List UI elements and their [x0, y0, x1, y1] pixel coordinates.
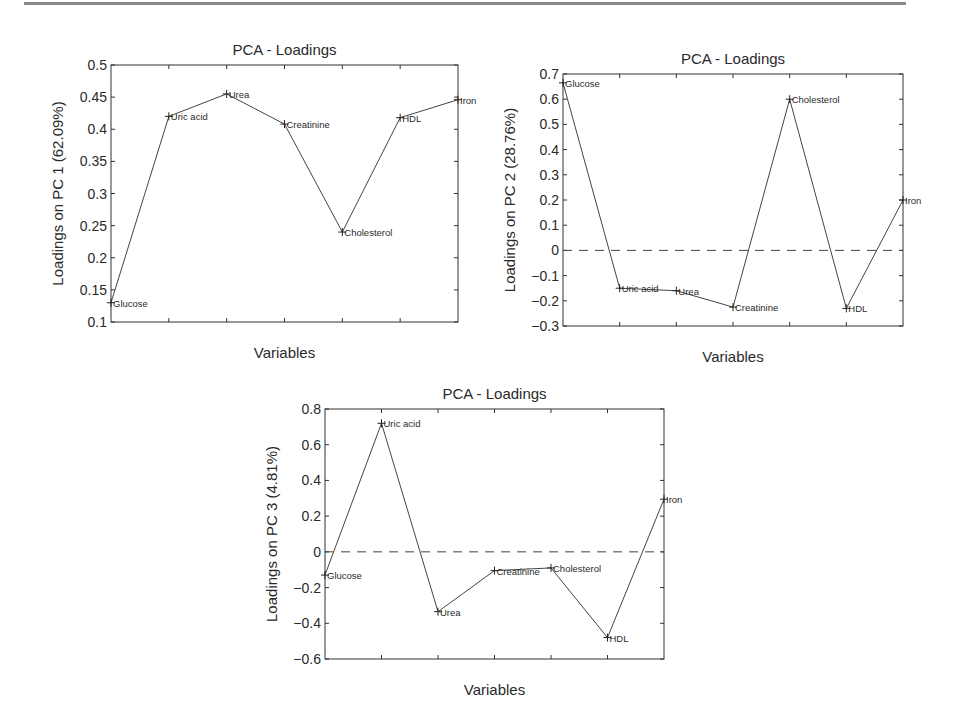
data-point-label: Creatinine [735, 302, 778, 313]
data-point-label: Glucose [565, 78, 600, 89]
x-axis-label: Variables [702, 348, 763, 365]
axes-box [563, 74, 903, 326]
loadings-line [325, 423, 664, 637]
data-point-label: Creatinine [287, 119, 330, 130]
y-tick-label: 0.7 [540, 66, 560, 82]
data-point-label: Uric acid [171, 111, 208, 122]
chart-title: PCA - Loadings [442, 385, 546, 402]
y-axis-label: Loadings on PC 1 (62.09%) [49, 101, 66, 285]
y-tick-label: 0 [551, 242, 559, 258]
chart-pc3-loadings: PCA - Loadings Variables Loadings on PC … [263, 385, 682, 698]
loadings-line [563, 83, 903, 309]
y-tick-label: 0.1 [88, 314, 108, 330]
data-point-label: Uric acid [622, 283, 659, 294]
y-tick-label: 0.2 [88, 250, 108, 266]
y-tick-label: 0.4 [540, 142, 560, 158]
chart-pc2-loadings: PCA - Loadings Variables Loadings on PC … [501, 50, 921, 365]
data-point-label: Cholesterol [553, 563, 601, 574]
y-tick-label: 0.35 [80, 153, 107, 169]
y-tick-label: −0.2 [293, 580, 321, 596]
y-tick-label: 0.3 [88, 186, 108, 202]
data-point-label: Iron [666, 494, 682, 505]
y-tick-label: 0.15 [80, 282, 107, 298]
x-axis-label: Variables [464, 681, 525, 698]
plot-area: −0.6−0.4−0.200.20.40.60.8GlucoseUric aci… [293, 401, 682, 667]
x-axis-label: Variables [254, 344, 315, 361]
pca-loadings-figure: PCA - Loadings Variables Loadings on PC … [0, 0, 958, 717]
y-axis-label: Loadings on PC 2 (28.76%) [501, 108, 518, 292]
axes-box [325, 409, 664, 659]
plot-area: −0.3−0.2−0.100.10.20.30.40.50.60.7Glucos… [531, 66, 921, 334]
y-tick-label: 0.5 [540, 116, 560, 132]
data-point-label: Creatinine [497, 566, 540, 577]
axes-box [111, 65, 458, 322]
y-tick-label: 0.1 [540, 217, 560, 233]
y-tick-label: 0.25 [80, 218, 107, 234]
y-tick-label: 0.2 [302, 508, 322, 524]
y-tick-label: −0.2 [531, 293, 559, 309]
data-point-label: Urea [440, 607, 461, 618]
data-point-label: Uric acid [384, 418, 421, 429]
chart-pc1-loadings: PCA - Loadings Variables Loadings on PC … [49, 41, 476, 361]
data-point-label: Cholesterol [792, 94, 840, 105]
data-point-label: Urea [229, 89, 250, 100]
y-tick-label: 0.6 [302, 437, 322, 453]
data-point-label: HDL [610, 633, 629, 644]
data-point-label: Cholesterol [344, 227, 392, 238]
y-tick-label: 0.4 [88, 121, 108, 137]
data-point-label: Iron [460, 95, 476, 106]
data-point-label: Glucose [327, 570, 362, 581]
y-tick-label: 0 [313, 544, 321, 560]
y-axis-label: Loadings on PC 3 (4.81%) [263, 446, 280, 622]
data-point-label: HDL [402, 113, 421, 124]
y-tick-label: −0.4 [293, 615, 321, 631]
y-tick-label: 0.4 [302, 472, 322, 488]
data-point-label: Urea [678, 286, 699, 297]
y-tick-label: −0.3 [531, 318, 559, 334]
y-tick-label: 0.6 [540, 91, 560, 107]
y-tick-label: 0.45 [80, 89, 107, 105]
y-tick-label: 0.3 [540, 167, 560, 183]
chart-title: PCA - Loadings [232, 41, 336, 58]
y-tick-label: 0.8 [302, 401, 322, 417]
y-tick-label: −0.6 [293, 651, 321, 667]
chart-title: PCA - Loadings [681, 50, 785, 67]
plot-area: 0.10.150.20.250.30.350.40.450.5GlucoseUr… [80, 57, 477, 330]
data-point-label: Glucose [113, 298, 148, 309]
data-point-label: Iron [905, 195, 921, 206]
y-tick-label: 0.2 [540, 192, 560, 208]
y-tick-label: −0.1 [531, 268, 559, 284]
y-tick-label: 0.5 [88, 57, 108, 73]
data-point-label: HDL [848, 303, 867, 314]
